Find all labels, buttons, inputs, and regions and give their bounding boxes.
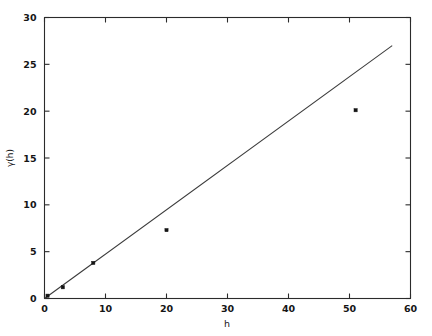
x-tick-label: 0	[41, 303, 48, 314]
semivariogram-plot: 0102030405060 051015202530 h γ(h)	[0, 0, 432, 336]
data-point	[354, 109, 357, 112]
x-tick-label: 30	[221, 303, 235, 314]
y-axis-title: γ(h)	[5, 149, 15, 167]
data-point	[61, 286, 64, 289]
y-tick-label: 30	[23, 12, 37, 23]
y-tick-label: 25	[23, 59, 36, 70]
figure-background	[0, 0, 432, 336]
x-tick-label: 50	[343, 303, 357, 314]
y-tick-label: 0	[30, 293, 37, 304]
y-tick-label: 15	[23, 153, 36, 164]
data-point	[92, 261, 95, 264]
x-axis-title: h	[224, 318, 230, 329]
data-point	[46, 294, 49, 297]
x-tick-label: 20	[160, 303, 174, 314]
chart-figure: 0102030405060 051015202530 h γ(h)	[0, 0, 432, 336]
data-point	[165, 229, 168, 232]
x-tick-label: 40	[282, 303, 296, 314]
y-tick-label: 5	[30, 246, 37, 257]
x-tick-label: 10	[99, 303, 113, 314]
x-tick-label: 60	[404, 303, 418, 314]
y-tick-label: 10	[23, 199, 37, 210]
y-tick-label: 20	[23, 106, 37, 117]
